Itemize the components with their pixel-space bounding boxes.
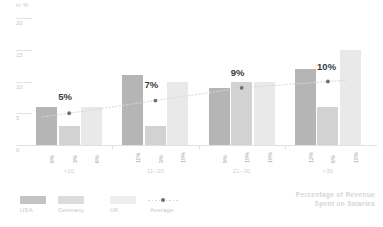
y-axis-tick-label: 20	[16, 20, 23, 27]
bar-value-label: 11%	[135, 153, 141, 163]
y-axis-tick-label: 5	[16, 115, 19, 122]
average-data-point	[326, 80, 330, 84]
chart-caption: Percentage of Revenue Spent on Salaries	[296, 190, 375, 208]
average-value-label: 9%	[231, 67, 245, 78]
average-data-point	[153, 99, 157, 103]
bar-value-label: 3%	[72, 155, 78, 163]
bar-value-label: 12%	[308, 152, 314, 163]
legend-label: Average	[150, 207, 174, 213]
average-line	[32, 18, 377, 145]
x-axis-tick	[199, 145, 200, 149]
legend-label: UK	[110, 207, 119, 213]
y-axis-tick-label: 0	[16, 147, 19, 154]
legend-dot-marker	[161, 198, 165, 202]
bar-value-label: 10%	[180, 152, 186, 163]
x-axis-group-label: 21–30	[212, 168, 272, 174]
bar-value-label: 15%	[353, 152, 359, 163]
x-axis-group-label: >30	[298, 168, 358, 174]
x-axis-tick	[285, 145, 286, 149]
bar-value-label: 9%	[222, 155, 228, 163]
caption-line-1: Percentage of Revenue	[296, 190, 375, 199]
legend-label: Germany	[58, 207, 84, 213]
average-value-label: 5%	[58, 91, 72, 102]
y-axis-tick-label: 15	[16, 52, 23, 59]
legend-swatch	[110, 196, 136, 204]
x-axis-group-label: <10	[39, 168, 99, 174]
caption-line-2: Spent on Salaries	[296, 199, 375, 208]
bar-value-label: 10%	[267, 152, 273, 163]
x-axis-group-label: 11–20	[125, 168, 185, 174]
x-axis-tick	[112, 145, 113, 149]
bar-chart: in % 20151050 6%3%6%<1011%3%10%11–209%10…	[0, 0, 383, 227]
y-axis-tick-rule	[16, 50, 32, 51]
average-trend-line	[43, 80, 348, 117]
legend-label: USA	[20, 207, 33, 213]
y-axis-tick-label: 10	[16, 84, 23, 91]
legend-swatch	[20, 196, 46, 204]
y-axis-unit-label: in %	[16, 2, 28, 8]
bar-value-label: 6%	[49, 155, 55, 163]
y-axis-tick-rule	[16, 18, 32, 19]
average-data-point	[240, 86, 244, 90]
x-axis-baseline	[16, 145, 377, 146]
bar-value-label: 3%	[158, 155, 164, 163]
bar-value-label: 6%	[330, 155, 336, 163]
average-value-label: 7%	[144, 79, 158, 90]
y-axis-tick-rule	[16, 113, 32, 114]
bar-value-label: 6%	[94, 155, 100, 163]
bar-value-label: 10%	[244, 152, 250, 163]
y-axis-tick-rule	[16, 82, 32, 83]
legend-swatch-average	[148, 196, 178, 204]
legend-swatch	[58, 196, 84, 204]
average-data-point	[67, 111, 71, 115]
average-value-label: 10%	[317, 61, 336, 72]
